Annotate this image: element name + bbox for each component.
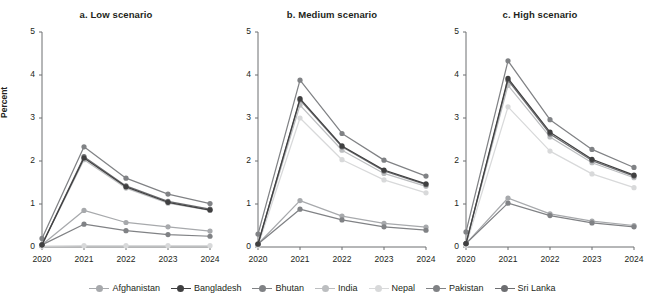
data-point <box>339 217 344 222</box>
data-point <box>165 224 170 229</box>
data-point <box>631 224 636 229</box>
data-point <box>123 243 128 248</box>
y-tick-label: 1 <box>454 198 459 208</box>
data-point <box>165 200 170 205</box>
data-point <box>505 201 510 206</box>
legend-marker-icon <box>171 284 191 293</box>
data-point <box>547 130 552 135</box>
y-tick-label: 2 <box>30 155 35 165</box>
legend-item-sri-lanka[interactable]: Sri Lanka <box>495 283 556 293</box>
plot-area: 01234520202021202220232024 <box>232 26 434 269</box>
x-tick-label: 2022 <box>117 254 136 264</box>
x-tick-label: 2024 <box>417 254 436 264</box>
data-point <box>123 228 128 233</box>
x-tick-label: 2022 <box>541 254 560 264</box>
chart-svg: 01234520202021202220232024 <box>232 26 434 269</box>
legend-item-india[interactable]: India <box>315 283 358 293</box>
data-point <box>165 192 170 197</box>
legend-label: Sri Lanka <box>518 283 556 293</box>
x-tick-label: 2020 <box>249 254 268 264</box>
y-tick-label: 0 <box>454 241 459 251</box>
data-point <box>423 173 428 178</box>
data-point <box>423 181 428 186</box>
panel-title: b. Medium scenario <box>232 9 432 20</box>
legend-item-bhutan[interactable]: Bhutan <box>252 283 304 293</box>
data-point <box>207 201 212 206</box>
y-tick-label: 5 <box>454 26 459 36</box>
legend-label: India <box>338 283 358 293</box>
data-point <box>207 243 212 248</box>
plot-area: 01234520202021202220232024 <box>440 26 642 269</box>
chart-legend: AfghanistanBangladeshBhutanIndiaNepalPak… <box>0 283 645 293</box>
data-point <box>123 220 128 225</box>
data-point <box>297 96 302 101</box>
plot-area: 01234520202021202220232024 <box>16 26 218 269</box>
data-point <box>381 224 386 229</box>
data-point <box>547 117 552 122</box>
data-point <box>207 234 212 239</box>
data-point <box>381 177 386 182</box>
panel-medium-scenario: b. Medium scenario 012345202020212022202… <box>232 0 432 280</box>
data-point <box>547 149 552 154</box>
data-point <box>297 198 302 203</box>
legend-label: Bhutan <box>275 283 304 293</box>
data-point <box>423 190 428 195</box>
series-line-nepal <box>258 118 426 246</box>
data-point <box>589 147 594 152</box>
x-tick-label: 2023 <box>583 254 602 264</box>
panel-title: c. High scenario <box>440 9 640 20</box>
y-tick-label: 0 <box>246 241 251 251</box>
y-tick-label: 5 <box>30 26 35 36</box>
series-line-pakistan <box>42 224 210 245</box>
data-point <box>255 241 260 246</box>
y-tick-label: 5 <box>246 26 251 36</box>
x-tick-label: 2020 <box>33 254 52 264</box>
legend-marker-icon <box>369 284 389 293</box>
y-tick-label: 1 <box>246 198 251 208</box>
data-point <box>165 243 170 248</box>
data-point <box>297 78 302 83</box>
legend-marker-icon <box>315 284 335 293</box>
y-tick-label: 3 <box>246 112 251 122</box>
x-tick-label: 2021 <box>499 254 518 264</box>
data-point <box>463 241 468 246</box>
y-tick-label: 3 <box>454 112 459 122</box>
y-axis-label: Percent <box>0 87 9 118</box>
legend-label: Afghanistan <box>112 283 160 293</box>
x-tick-label: 2022 <box>333 254 352 264</box>
legend-item-afghanistan[interactable]: Afghanistan <box>89 283 160 293</box>
legend-label: Bangladesh <box>194 283 242 293</box>
data-point <box>589 157 594 162</box>
legend-item-nepal[interactable]: Nepal <box>369 283 416 293</box>
series-line-afghanistan <box>466 198 634 244</box>
y-tick-label: 4 <box>454 69 459 79</box>
data-point <box>463 229 468 234</box>
legend-marker-icon <box>495 284 515 293</box>
y-tick-label: 1 <box>30 198 35 208</box>
data-point <box>81 243 86 248</box>
data-point <box>39 242 44 247</box>
x-tick-label: 2024 <box>201 254 220 264</box>
y-tick-label: 4 <box>30 69 35 79</box>
legend-marker-icon <box>89 284 109 293</box>
data-point <box>123 184 128 189</box>
data-point <box>339 143 344 148</box>
x-tick-label: 2021 <box>291 254 310 264</box>
panel-high-scenario: c. High scenario 01234520202021202220232… <box>440 0 640 280</box>
data-point <box>165 232 170 237</box>
x-tick-label: 2020 <box>457 254 476 264</box>
legend-marker-icon <box>426 284 446 293</box>
data-point <box>505 76 510 81</box>
legend-item-bangladesh[interactable]: Bangladesh <box>171 283 242 293</box>
data-point <box>123 176 128 181</box>
data-point <box>589 171 594 176</box>
data-point <box>589 220 594 225</box>
data-point <box>631 165 636 170</box>
data-point <box>297 207 302 212</box>
data-point <box>339 157 344 162</box>
data-point <box>423 228 428 233</box>
legend-item-pakistan[interactable]: Pakistan <box>426 283 484 293</box>
series-line-afghanistan <box>42 210 210 244</box>
data-point <box>381 167 386 172</box>
x-tick-label: 2021 <box>75 254 94 264</box>
